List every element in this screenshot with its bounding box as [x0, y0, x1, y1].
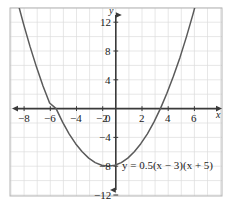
coordinate-plane-figure — [0, 0, 236, 208]
x-tick-label-0: 0 — [105, 113, 111, 124]
y-tick-label--12: −12 — [94, 190, 111, 201]
x-tick-label-6: 6 — [191, 113, 197, 124]
x-tick-label--6: −6 — [44, 113, 56, 124]
x-tick-label--8: −8 — [18, 113, 30, 124]
y-axis-name: y — [109, 6, 113, 16]
x-tick-label-4: 4 — [165, 113, 171, 124]
y-tick-label--4: −4 — [99, 132, 111, 143]
equation-annotation: y = 0.5(x − 3)(x + 5) — [122, 160, 213, 171]
x-tick-label--4: −4 — [70, 113, 82, 124]
x-tick-label-2: 2 — [139, 113, 145, 124]
y-tick-label-4: 4 — [105, 75, 111, 86]
y-tick-label--8: −8 — [99, 161, 111, 172]
graph-screenshot: −8 −6 −4 −2 0 2 4 6 12 8 4 −4 −8 −12 y x… — [0, 0, 236, 208]
x-axis-name: x — [216, 110, 220, 120]
y-tick-label-8: 8 — [105, 46, 111, 57]
y-tick-label-12: 12 — [100, 17, 111, 28]
